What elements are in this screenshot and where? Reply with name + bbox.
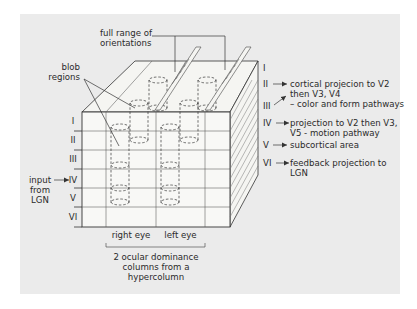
input-label-line1: input	[26, 175, 54, 185]
projection-II-line1: cortical projecion to V2	[290, 79, 404, 89]
caption-line2: columns from a	[100, 262, 212, 272]
projection-II-line3: – color and form pathways	[290, 99, 404, 109]
ocular-bracket	[106, 243, 205, 247]
blob-label-line2: regions	[44, 72, 80, 82]
front-layer-I: I	[66, 116, 80, 126]
front-layer-II: II	[66, 135, 80, 145]
caption-line1: 2 ocular dominance	[100, 252, 212, 262]
side-layer-VI: VI	[263, 158, 271, 168]
projection-layer-V: subcortical area	[290, 140, 359, 150]
projection-layer-VI: feedback projection to LGN	[290, 158, 387, 178]
input-from-lgn-label: input from LGN	[26, 175, 54, 205]
projection-layer-IV: projection to V2 then V3, V5 - motion pa…	[290, 118, 397, 138]
orientations-label-line1: full range of	[100, 28, 150, 38]
projection-II-line2: then V3, V4	[290, 89, 404, 99]
blob-label-line1: blob	[44, 62, 80, 72]
side-layer-IV: IV	[263, 118, 271, 128]
right-eye-label: right eye	[106, 230, 156, 240]
side-layer-III: III	[263, 101, 271, 111]
input-label-line3: LGN	[26, 195, 54, 205]
orientations-label: full range of orientations	[100, 28, 150, 48]
front-layer-V: V	[66, 193, 80, 203]
front-layer-VI: VI	[66, 212, 80, 222]
projection-V-line1: subcortical area	[290, 140, 359, 150]
side-layer-V: V	[263, 140, 269, 150]
projection-layer-II-III: cortical projecion to V2 then V3, V4 – c…	[290, 79, 404, 109]
projection-IV-line1: projection to V2 then V3,	[290, 118, 397, 128]
input-label-line2: from	[26, 185, 54, 195]
left-eye-label: left eye	[156, 230, 205, 240]
projection-VI-line2: LGN	[290, 168, 387, 178]
projection-IV-line2: V5 - motion pathway	[290, 128, 397, 138]
side-layer-I: I	[263, 63, 266, 73]
projection-arrows	[273, 84, 289, 163]
side-layer-II: II	[263, 79, 268, 89]
front-layer-III: III	[66, 154, 80, 164]
front-layer-IV: IV	[66, 175, 80, 185]
caption-line3: hypercolumn	[100, 272, 212, 282]
orientations-label-line2: orientations	[100, 38, 150, 48]
blob-regions-label: blob regions	[44, 62, 80, 82]
ocular-dominance-caption: 2 ocular dominance columns from a hyperc…	[100, 252, 212, 282]
projection-VI-line1: feedback projection to	[290, 158, 387, 168]
